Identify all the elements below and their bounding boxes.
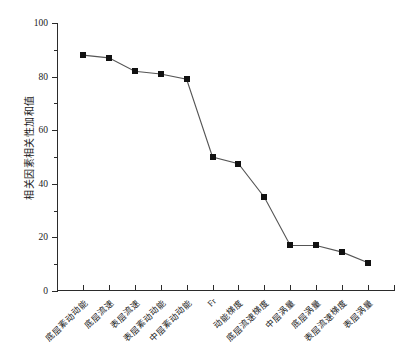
data-point [132, 68, 138, 74]
data-point [261, 194, 267, 200]
data-point [313, 242, 319, 248]
chart-container: 相关因素相关性加和值 020406080100 底层紊动动能底层流速表层流速表层… [0, 0, 412, 350]
data-point [365, 260, 371, 266]
data-point [287, 242, 293, 248]
data-point [184, 76, 190, 82]
data-point [210, 154, 216, 160]
data-point [106, 55, 112, 61]
data-point [235, 161, 241, 167]
data-point [158, 71, 164, 77]
data-point [80, 52, 86, 58]
data-point [339, 249, 345, 255]
series-line [0, 0, 412, 350]
